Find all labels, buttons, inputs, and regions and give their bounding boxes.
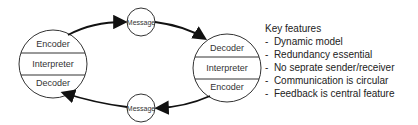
right-interpreter-label: Interpreter (206, 63, 248, 73)
arrow-top-message-to-right (155, 22, 204, 38)
left-encoder-label: Encoder (36, 39, 70, 49)
list-item: No seprate sender/receiver (265, 61, 395, 74)
right-decoder-label: Decoder (210, 43, 244, 53)
right-encoder-label: Encoder (210, 82, 244, 92)
key-features-list: Dynamic model Redundancy essential No se… (265, 35, 395, 100)
list-item: Feedback is central feature (265, 87, 395, 100)
top-message-label: Message (127, 19, 155, 26)
left-interpreter-label: Interpreter (32, 59, 74, 69)
list-item: Dynamic model (265, 35, 395, 48)
key-features-title: Key features (265, 22, 395, 35)
arrow-left-to-top-message (68, 22, 124, 35)
arrow-bottom-message-to-left (64, 93, 127, 107)
list-item: Communication is circular (265, 74, 395, 87)
list-item: Redundancy essential (265, 48, 395, 61)
left-decoder-label: Decoder (36, 78, 70, 88)
bottom-message-label: Message (127, 105, 155, 112)
arrow-right-to-bottom-message (158, 96, 210, 108)
key-features-panel: Key features Dynamic model Redundancy es… (265, 22, 395, 100)
